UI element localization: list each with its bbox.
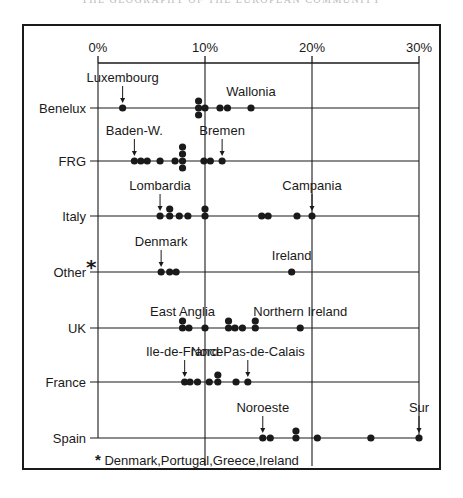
data-dot (288, 268, 295, 275)
data-dot (244, 378, 251, 385)
region-annotation: Luxembourg (86, 70, 158, 85)
region-annotation: Sur (409, 400, 430, 415)
region-annotation: Baden-W. (106, 123, 163, 138)
data-dot (367, 434, 374, 441)
data-dot (232, 378, 239, 385)
x-tick-label: 30% (406, 40, 432, 55)
footnote: * Denmark,Portugal,Greece,Ireland (95, 451, 299, 468)
data-dot (166, 268, 173, 275)
arrow-head-icon (260, 428, 265, 433)
arrow-head-icon (310, 206, 315, 211)
data-dot (293, 212, 300, 219)
data-dot (216, 104, 223, 111)
row-spain: SpainNoroesteSur (53, 400, 430, 446)
dot-strip-chart: 0%10%20%30% BeneluxLuxembourgWalloniaFRG… (0, 0, 463, 498)
data-dot (201, 205, 208, 212)
arrow-head-icon (132, 151, 137, 156)
asterisk-icon: * (95, 451, 101, 468)
arrow-head-icon (245, 372, 250, 377)
region-annotation: Northern Ireland (253, 304, 347, 319)
row-label: Benelux (39, 101, 86, 116)
region-annotation: Lombardia (129, 178, 191, 193)
region-annotation: East Anglia (150, 304, 216, 319)
data-dot (259, 434, 266, 441)
data-dot (171, 157, 178, 164)
data-dot (247, 104, 254, 111)
data-dot (131, 157, 138, 164)
data-dot (156, 212, 163, 219)
arrow-head-icon (120, 98, 125, 103)
row-label: Spain (53, 431, 86, 446)
data-dot (201, 324, 208, 331)
data-dot (144, 157, 151, 164)
data-dot (137, 157, 144, 164)
data-dot (179, 150, 186, 157)
arrow-head-icon (220, 151, 225, 156)
data-dot (415, 434, 422, 441)
data-dot (195, 111, 202, 118)
data-dot (297, 324, 304, 331)
data-dot (179, 157, 186, 164)
data-dot (206, 378, 213, 385)
data-dot (308, 212, 315, 219)
x-tick-label: 10% (192, 40, 218, 55)
data-dot (173, 268, 180, 275)
data-dot (225, 324, 232, 331)
arrow-head-icon (417, 428, 422, 433)
data-dot (292, 427, 299, 434)
row-label: UK (68, 321, 86, 336)
data-dot (224, 104, 231, 111)
arrow-head-icon (159, 262, 164, 267)
row-france: FranceIle-de-FranceNord-Pas-de-Calais (46, 344, 419, 390)
row-label: Italy (62, 209, 86, 224)
region-annotation: Wallonia (226, 84, 276, 99)
row-other: Other*DenmarkIreland (53, 234, 419, 280)
region-annotation: Ireland (272, 248, 312, 263)
data-dot (200, 157, 207, 164)
footnote-text: Denmark,Portugal,Greece,Ireland (104, 453, 298, 468)
data-dot (119, 104, 126, 111)
row-frg: FRGBaden-W.Bremen (59, 123, 419, 172)
data-dot (214, 371, 221, 378)
data-dot (186, 378, 193, 385)
region-annotation: Campania (282, 178, 342, 193)
data-dot (219, 157, 226, 164)
row-benelux: BeneluxLuxembourgWallonia (39, 70, 419, 119)
region-annotation: Noroeste (236, 400, 289, 415)
row-label: FRG (59, 154, 86, 169)
data-dot (194, 378, 201, 385)
region-annotation: Nord-Pas-de-Calais (191, 344, 306, 359)
asterisk-icon: * (86, 255, 97, 279)
data-dot (231, 324, 238, 331)
data-dot (184, 212, 191, 219)
data-dot (166, 205, 173, 212)
data-dot (195, 104, 202, 111)
arrow-head-icon (182, 372, 187, 377)
row-label: Other (53, 265, 86, 280)
region-annotation: Bremen (199, 123, 245, 138)
data-dot (158, 268, 165, 275)
data-dot (267, 434, 274, 441)
data-dot (292, 434, 299, 441)
data-dot (239, 324, 246, 331)
data-dot (201, 104, 208, 111)
data-dot (185, 324, 192, 331)
x-tick-label: 20% (299, 40, 325, 55)
data-dot (252, 324, 259, 331)
data-dot (214, 378, 221, 385)
data-dot (179, 164, 186, 171)
arrow-head-icon (158, 206, 163, 211)
row-label: France (46, 375, 86, 390)
row-italy: ItalyLombardiaCampania (62, 178, 419, 224)
data-dot (156, 157, 163, 164)
data-dot (265, 212, 272, 219)
data-dot (258, 212, 265, 219)
region-annotation: Denmark (135, 234, 188, 249)
data-dot (179, 143, 186, 150)
data-dot (195, 97, 202, 104)
data-dot (207, 157, 214, 164)
data-dot (314, 434, 321, 441)
data-dot (201, 212, 208, 219)
data-dot (176, 212, 183, 219)
row-uk: UKEast AngliaNorthern Ireland (68, 304, 419, 336)
